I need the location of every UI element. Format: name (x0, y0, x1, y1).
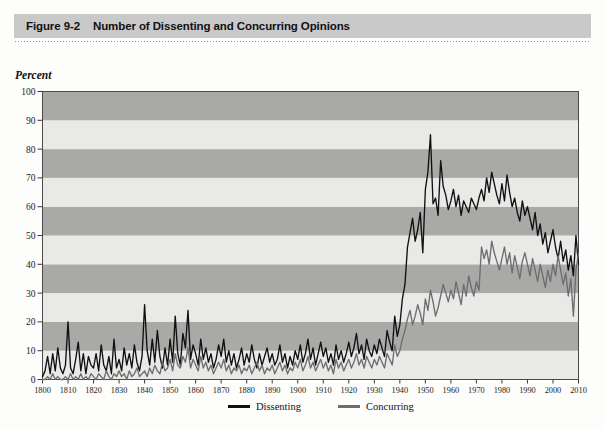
y-tick-label: 80 (26, 145, 36, 155)
y-tick-marks (38, 92, 43, 380)
x-tick-label: 1980 (494, 386, 511, 395)
plot-band (43, 149, 579, 178)
y-tick-label: 10 (26, 346, 36, 356)
x-tick-label: 1940 (392, 386, 409, 395)
chart-figure: 0102030405060708090100 18001810182018301… (0, 0, 605, 430)
legend-label-concurring: Concurring (366, 401, 415, 412)
x-tick-label: 1920 (340, 386, 357, 395)
x-tick-marks (43, 380, 579, 384)
x-tick-label: 1880 (238, 386, 255, 395)
x-tick-label: 1800 (34, 386, 51, 395)
plot-band (43, 120, 579, 149)
y-tick-label: 90 (26, 116, 36, 126)
x-tick-labels: 1800181018201830184018501860187018801890… (34, 386, 587, 395)
plot-bands (43, 92, 579, 380)
x-tick-label: 1890 (264, 386, 281, 395)
y-tick-label: 70 (26, 173, 36, 183)
y-tick-label: 0 (31, 375, 36, 385)
y-tick-label: 40 (26, 260, 36, 270)
plot-band (43, 236, 579, 265)
y-tick-label: 50 (26, 231, 36, 241)
x-tick-label: 1990 (519, 386, 536, 395)
chart-legend: DissentingConcurring (228, 401, 415, 412)
x-tick-label: 1960 (443, 386, 460, 395)
x-tick-label: 1930 (366, 386, 383, 395)
line-chart: 0102030405060708090100 18001810182018301… (0, 0, 605, 430)
x-tick-label: 1820 (85, 386, 102, 395)
plot-band (43, 92, 579, 121)
plot-band (43, 178, 579, 207)
x-tick-label: 1870 (213, 386, 230, 395)
y-tick-labels: 0102030405060708090100 (21, 87, 36, 385)
x-tick-label: 2010 (570, 386, 587, 395)
x-tick-label: 1860 (187, 386, 204, 395)
x-tick-label: 1900 (289, 386, 306, 395)
y-tick-label: 20 (26, 317, 36, 327)
y-tick-label: 60 (26, 202, 36, 212)
x-tick-label: 1830 (111, 386, 128, 395)
plot-band (43, 207, 579, 236)
x-tick-label: 1840 (136, 386, 153, 395)
x-tick-label: 2000 (545, 386, 562, 395)
plot-band (43, 322, 579, 351)
x-tick-label: 1810 (60, 386, 77, 395)
x-tick-label: 1950 (417, 386, 434, 395)
x-tick-label: 1910 (315, 386, 332, 395)
legend-label-dissenting: Dissenting (256, 401, 302, 412)
x-tick-label: 1970 (468, 386, 485, 395)
plot-band (43, 264, 579, 293)
plot-band (43, 293, 579, 322)
x-tick-label: 1850 (162, 386, 179, 395)
y-tick-label: 100 (21, 87, 36, 97)
y-tick-label: 30 (26, 289, 36, 299)
